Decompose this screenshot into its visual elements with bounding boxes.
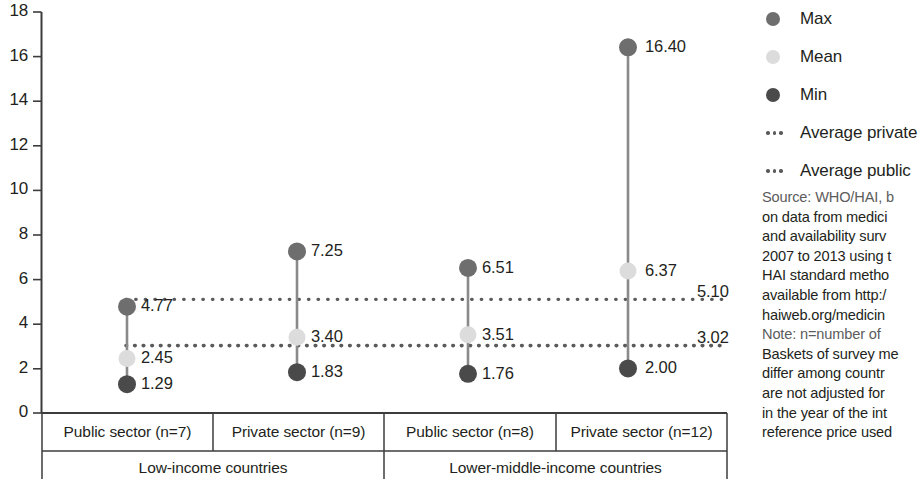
source-line: 2007 to 2013 using t	[762, 247, 920, 267]
mean-marker	[620, 263, 637, 280]
min-marker	[118, 375, 136, 393]
ytick-label: 18	[0, 1, 28, 21]
legend-item-min[interactable]: Min	[762, 76, 912, 114]
max-marker	[288, 242, 306, 260]
group-label-lower-middle-income: Lower-middle-income countries	[384, 459, 727, 477]
average-private-value-label: 5.10	[697, 282, 729, 301]
ytick-label: 10	[0, 179, 28, 199]
source-line: haiweb.org/medicin	[762, 306, 920, 326]
mean-marker	[289, 329, 306, 346]
max-value-label: 16.40	[645, 37, 686, 56]
legend-item-mean[interactable]: Mean	[762, 38, 912, 76]
min-marker	[459, 365, 477, 383]
legend-label: Min	[800, 85, 827, 105]
min-marker	[288, 363, 306, 381]
category-label-private-lmic: Private sector (n=12)	[556, 423, 727, 441]
max-value-label: 6.51	[482, 258, 514, 277]
dotted-line-icon	[762, 131, 800, 135]
note-line: are not adjusted for	[762, 384, 920, 404]
source-and-note-block: Source: WHO/HAI, b on data from medici a…	[762, 188, 920, 479]
ytick-label: 12	[0, 135, 28, 155]
mean-value-label: 2.45	[141, 348, 173, 367]
min-circle-icon	[762, 88, 800, 102]
source-line: Source: WHO/HAI, b	[762, 188, 920, 208]
datapoint-group-4	[619, 38, 637, 377]
min-value-label: 1.29	[141, 374, 173, 393]
average-public-value-label: 3.02	[697, 328, 729, 347]
source-line: available from http:/	[762, 286, 920, 306]
ytick-label: 14	[0, 90, 28, 110]
max-circle-icon	[762, 12, 800, 26]
category-label-public-lmic: Public sector (n=8)	[384, 423, 556, 441]
max-marker	[118, 298, 136, 316]
ytick-label: 2	[0, 358, 28, 378]
note-line: Note: n=number of	[762, 325, 920, 345]
plot-canvas	[0, 0, 745, 479]
ytick-label: 0	[0, 402, 28, 422]
note-text: Note: n=number of Baskets of survey me d…	[762, 325, 920, 443]
note-line: differ among countr	[762, 364, 920, 384]
price-ratio-chart: 18 16 14 12 10 8 6 4 2 0 4.77 2.45 1.29 …	[0, 0, 745, 479]
source-text: Source: WHO/HAI, b on data from medici a…	[762, 188, 920, 325]
ytick-label: 4	[0, 313, 28, 333]
note-line: Baskets of survey me	[762, 345, 920, 365]
datapoint-group-3	[459, 259, 477, 383]
legend-label: Average private	[800, 123, 917, 143]
max-value-label: 7.25	[311, 241, 343, 260]
legend-label: Average public	[800, 161, 911, 181]
legend-label: Max	[800, 9, 832, 29]
y-axis-ticks	[33, 12, 42, 413]
min-value-label: 2.00	[645, 358, 677, 377]
min-value-label: 1.83	[311, 362, 343, 381]
mean-marker	[119, 350, 136, 367]
category-label-private-low: Private sector (n=9)	[213, 423, 384, 441]
legend-item-average-public[interactable]: Average public	[762, 152, 912, 190]
legend-label: Mean	[800, 47, 842, 67]
ytick-label: 16	[0, 46, 28, 66]
max-marker	[459, 259, 477, 277]
legend-item-max[interactable]: Max	[762, 0, 912, 38]
mean-circle-icon	[762, 50, 800, 64]
max-value-label: 4.77	[141, 296, 173, 315]
source-line: and availability surv	[762, 227, 920, 247]
mean-value-label: 6.37	[645, 261, 677, 280]
min-marker	[619, 359, 637, 377]
chart-legend: Max Mean Min Average private Average pub…	[762, 0, 912, 190]
datapoint-group-2	[288, 242, 306, 381]
source-line: on data from medici	[762, 208, 920, 228]
mean-value-label: 3.40	[311, 327, 343, 346]
category-label-public-low: Public sector (n=7)	[42, 423, 213, 441]
min-value-label: 1.76	[482, 364, 514, 383]
note-line: in the year of the int	[762, 404, 920, 424]
ytick-label: 8	[0, 224, 28, 244]
ytick-label: 6	[0, 269, 28, 289]
max-marker	[619, 38, 637, 56]
legend-item-average-private[interactable]: Average private	[762, 114, 912, 152]
group-label-low-income: Low-income countries	[42, 459, 384, 477]
note-line: reference price used	[762, 423, 920, 443]
dotted-line-icon	[762, 169, 800, 173]
mean-value-label: 3.51	[482, 325, 514, 344]
mean-marker	[460, 326, 477, 343]
source-line: HAI standard metho	[762, 266, 920, 286]
